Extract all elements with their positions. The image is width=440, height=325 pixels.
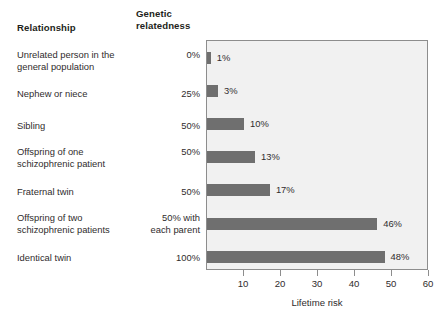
bar-value-label: 1% [217, 52, 231, 64]
x-axis-tick [428, 270, 429, 276]
genetic-relatedness-value: 100% [114, 252, 200, 264]
bar [207, 184, 270, 196]
relationship-label-line2: general population [17, 61, 141, 73]
column-header-genetic-relatedness: Genetic relatedness [136, 8, 202, 31]
genetic-relatedness-value: 50% [114, 186, 200, 198]
relationship-label-line2: schizophrenic patient [17, 158, 141, 170]
genetic-relatedness-value-line2: each parent [114, 224, 200, 236]
bar-value-label: 46% [383, 218, 402, 230]
genetic-relatedness-value: 25% [114, 88, 200, 100]
x-axis-tick [280, 270, 281, 276]
bar-value-label: 48% [391, 251, 410, 263]
genetic-relatedness-value: 50% [114, 146, 200, 158]
bar [207, 251, 385, 263]
bar-value-label: 13% [261, 151, 280, 163]
genetic-relatedness-value-line1: 0% [114, 49, 200, 61]
column-header-genetic-relatedness-line1: Genetic [136, 8, 202, 20]
bar-value-label: 3% [224, 85, 238, 97]
x-axis-tick-label: 60 [413, 278, 440, 289]
x-axis-tick-label: 50 [376, 278, 406, 289]
x-axis-tick [243, 270, 244, 276]
bar [207, 118, 244, 130]
bar [207, 52, 211, 64]
bar-value-label: 17% [276, 184, 295, 196]
x-axis-tick-label: 10 [228, 278, 258, 289]
column-header-genetic-relatedness-line2: relatedness [136, 20, 202, 32]
x-axis-tick [317, 270, 318, 276]
genetic-relatedness-value: 0% [114, 49, 200, 61]
bar [207, 218, 377, 230]
schizophrenia-risk-chart: Relationship Genetic relatedness Unrelat… [0, 0, 440, 325]
genetic-relatedness-value-line1: 50% [114, 120, 200, 132]
genetic-relatedness-value: 50% [114, 120, 200, 132]
genetic-relatedness-value-line1: 25% [114, 88, 200, 100]
bar-value-label: 10% [250, 118, 269, 130]
x-axis-tick-label: 20 [265, 278, 295, 289]
x-axis-tick-label: 30 [302, 278, 332, 289]
x-axis-title: Lifetime risk [206, 297, 428, 308]
genetic-relatedness-value-line1: 50% with [114, 212, 200, 224]
genetic-relatedness-value-line1: 50% [114, 186, 200, 198]
bar [207, 151, 255, 163]
genetic-relatedness-value-line1: 100% [114, 252, 200, 264]
column-header-relationship: Relationship [17, 22, 76, 34]
bar [207, 85, 218, 97]
x-axis-tick [391, 270, 392, 276]
x-axis-tick-label: 40 [339, 278, 369, 289]
genetic-relatedness-value-line1: 50% [114, 146, 200, 158]
genetic-relatedness-value: 50% witheach parent [114, 212, 200, 235]
x-axis-tick [354, 270, 355, 276]
